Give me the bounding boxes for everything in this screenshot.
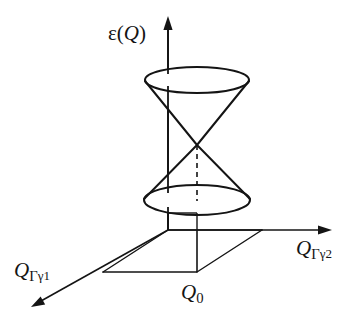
upper-cone [145,67,249,145]
coord-right-gamma-capital: Γ [311,246,320,262]
energy-label-q: Q [124,21,139,45]
coord-axis-left-line [41,230,168,301]
reference-point-index: 0 [196,290,203,306]
coord-axis-left-label: QΓγ1 [14,260,50,284]
figure-canvas [0,0,360,323]
conical-intersection-figure: ε(Q) QΓγ2 QΓγ1 Q0 [0,0,360,323]
basal-plane-parallelogram [103,230,262,272]
coord-left-gamma-capital: Γ [29,268,38,284]
coord-right-index: 2 [325,246,332,261]
reference-point-label: Q0 [181,282,204,306]
coord-axis-right [168,226,332,235]
plane-edge-right [197,230,262,272]
energy-axis-label: ε(Q) [108,23,146,44]
energy-label-open-paren: ( [117,21,124,45]
epsilon-symbol: ε [108,21,117,45]
coord-left-index: 1 [43,268,50,283]
reference-point-q: Q [181,280,196,304]
coord-axis-right-label: QΓγ2 [296,238,332,262]
coord-axis-left [31,230,168,307]
coord-axis-right-arrowhead [318,226,332,235]
coord-right-q: Q [296,236,311,260]
coord-left-q: Q [14,258,29,282]
energy-label-close-paren: ) [139,21,146,45]
coord-axis-left-arrowhead [31,296,45,307]
